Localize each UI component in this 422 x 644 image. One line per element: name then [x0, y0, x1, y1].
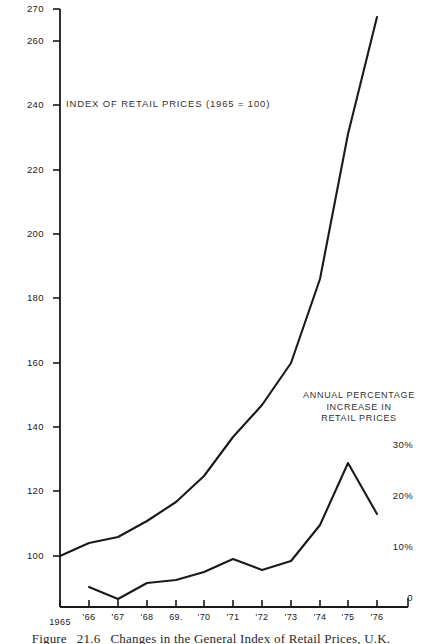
annotation-line-2: INCREASE IN [300, 402, 418, 414]
y-tick-label-140: 140 [10, 422, 44, 432]
figure-caption-label: Figure [32, 631, 67, 644]
right-tick-label-20pct: 20% [383, 491, 413, 501]
chart-plot-area [0, 0, 422, 644]
y-tick-label-260: 260 [10, 36, 44, 46]
y-axis-ticks [53, 9, 60, 556]
right-tick-label-0pct: 0 [383, 593, 413, 603]
y-tick-label-270: 270 [10, 4, 44, 14]
right-tick-label-10pct: 10% [383, 542, 413, 552]
x-axis-ticks [60, 598, 408, 607]
y-tick-label-240: 240 [10, 100, 44, 110]
y-tick-label-220: 220 [10, 165, 44, 175]
right-tick-label-30pct: 30% [383, 440, 413, 450]
chart-title: INDEX OF RETAIL PRICES (1965 = 100) [66, 98, 270, 109]
figure-caption-text: Changes in the General Index of Retail P… [110, 631, 390, 644]
y-tick-label-200: 200 [10, 229, 44, 239]
y-tick-label-120: 120 [10, 486, 44, 496]
figure-caption-number: 21.6 [77, 631, 101, 644]
series-line-annual-percentage-increase [89, 463, 377, 599]
annotation-line-1: ANNUAL PERCENTAGE [300, 390, 418, 402]
y-tick-label-100: 100 [10, 551, 44, 561]
annotation-annual-percentage-increase: ANNUAL PERCENTAGE INCREASE IN RETAIL PRI… [300, 390, 418, 425]
y-tick-label-160: 160 [10, 358, 44, 368]
annotation-line-3: RETAIL PRICES [300, 413, 418, 425]
x-tick-label-1976: '76 [357, 613, 397, 622]
y-tick-label-180: 180 [10, 293, 44, 303]
figure-retail-price-index: 270 260 240 220 200 180 160 140 120 100 … [0, 0, 422, 644]
figure-caption: Figure21.6Changes in the General Index o… [0, 631, 422, 644]
